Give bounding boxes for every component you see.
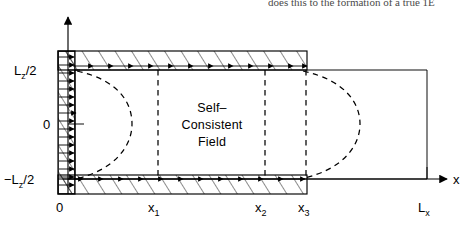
x-axis-name-label: x (453, 172, 460, 187)
svg-text:x1: x1 (148, 200, 160, 218)
z-tick-label-top: Lz/2 (14, 63, 37, 81)
lx-sub: x (425, 208, 430, 218)
top-wall-body (58, 51, 307, 70)
outer-domain-box (307, 70, 427, 179)
z-bot-main: −L (4, 172, 19, 187)
region-label-line-2: Consistent (181, 118, 242, 132)
self-consistent-field-label: Self– Consistent Field (181, 101, 242, 149)
top-hatched-wall (58, 51, 307, 70)
left-hatched-wall (58, 51, 76, 194)
x-origin-main: 0 (56, 200, 63, 215)
z-top-suffix: /2 (26, 63, 37, 78)
bottom-hatched-wall (58, 175, 307, 194)
x3-sub: 3 (305, 208, 310, 218)
x-tick-label-x2: x2 (255, 200, 267, 218)
z-top-main: L (14, 63, 21, 78)
region-label-line-1: Self– (197, 101, 227, 115)
z-bot-suffix: /2 (23, 172, 34, 187)
z-tick-label-bottom: −Lz/2 (4, 172, 34, 190)
z-tick-label-mid: 0 (43, 117, 50, 132)
svg-text:Lz/2: Lz/2 (14, 63, 37, 81)
self-consistent-field-diagram: Lz/2 0 −Lz/2 0 x1 x2 x3 Lx x Self– (0, 0, 471, 225)
x-tick-label-x1: x1 (148, 200, 160, 218)
lx-main: L (418, 200, 425, 215)
region-label-line-3: Field (198, 135, 226, 149)
right-dashed-separatrix (303, 71, 360, 178)
x-tick-label-lx: Lx (418, 200, 430, 218)
z-mid-main: 0 (43, 117, 50, 132)
figure-page: does this to the formation of a true 1E (0, 0, 471, 225)
svg-text:x2: x2 (255, 200, 267, 218)
axis-tick-marks (68, 70, 427, 179)
svg-text:−Lz/2: −Lz/2 (4, 172, 34, 190)
x-axis-name: x (453, 172, 460, 187)
x-tick-label-x3: x3 (298, 200, 310, 218)
svg-text:x3: x3 (298, 200, 310, 218)
x2-sub: 2 (262, 208, 267, 218)
svg-text:Lx: Lx (418, 200, 430, 218)
left-wall-body (58, 51, 75, 194)
left-dashed-separatrix (77, 71, 132, 178)
x-tick-label-origin: 0 (56, 200, 63, 215)
x1-sub: 1 (155, 208, 160, 218)
bottom-wall-body (58, 175, 307, 194)
